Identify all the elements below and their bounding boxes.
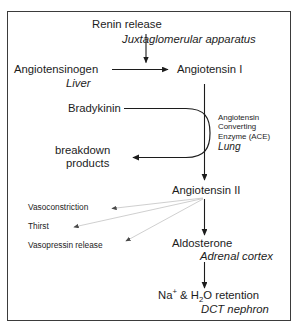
node-liver: Liver bbox=[66, 77, 91, 89]
na-mid: & H bbox=[177, 289, 199, 301]
na-suffix: O retention bbox=[203, 289, 259, 301]
arrow-angiotensin2-to-thirst bbox=[74, 199, 203, 228]
arrow-bradykinin-to-breakdown bbox=[124, 109, 210, 158]
arrow-layer bbox=[0, 0, 303, 330]
node-bradykinin: Bradykinin bbox=[68, 102, 121, 114]
ace-line-2: Converting bbox=[218, 122, 270, 131]
node-lung: Lung bbox=[218, 141, 241, 152]
node-na-h2o-retention: Na+ & H2O retention bbox=[158, 289, 259, 301]
node-ace-label: Angiotensin Converting Enzyme (ACE) Lung bbox=[218, 113, 270, 153]
node-angiotensin-2: Angiotensin II bbox=[172, 184, 240, 196]
node-dct-nephron: DCT nephron bbox=[201, 303, 269, 315]
node-juxtaglomerular-apparatus: Juxtaglomerular apparatus bbox=[122, 33, 256, 45]
node-renin-release: Renin release bbox=[92, 18, 162, 30]
node-angiotensinogen: Angiotensinogen bbox=[14, 63, 98, 75]
ace-line-1: Angiotensin bbox=[218, 113, 270, 122]
node-breakdown-line1: breakdown bbox=[55, 144, 110, 156]
diagram-canvas: Renin release Juxtaglomerular apparatus … bbox=[0, 0, 303, 330]
node-adrenal-cortex: Adrenal cortex bbox=[200, 250, 273, 262]
node-thirst: Thirst bbox=[28, 222, 49, 231]
node-aldosterone: Aldosterone bbox=[172, 237, 232, 249]
node-vasoconstriction: Vasoconstriction bbox=[28, 203, 88, 212]
node-angiotensin-1: Angiotensin I bbox=[177, 63, 242, 75]
node-breakdown-line2: products bbox=[66, 157, 109, 169]
ace-line-3: Enzyme (ACE) bbox=[218, 132, 270, 141]
node-vasopressin-release: Vasopressin release bbox=[28, 241, 103, 250]
na-prefix: Na bbox=[158, 289, 172, 301]
